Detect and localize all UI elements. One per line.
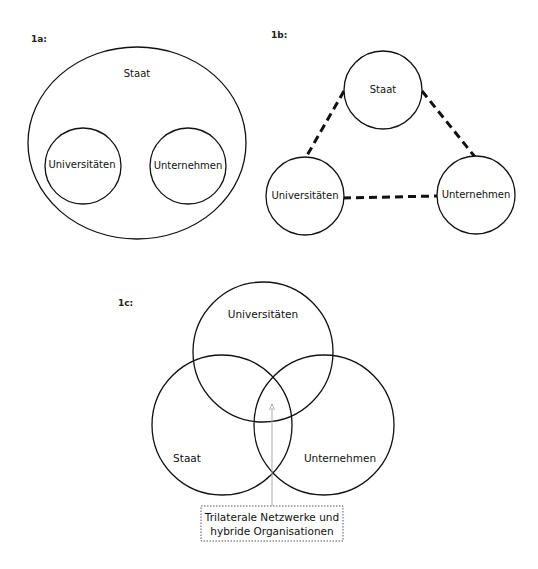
universitaeten-label: Universitäten xyxy=(48,159,115,170)
universitaeten-label: Universitäten xyxy=(271,190,338,201)
figure-1b: 1b: Staat Universitäten Unternehmen xyxy=(266,30,515,235)
callout-line-2: hybride Organisationen xyxy=(210,525,333,537)
figure-1a-tag: 1a: xyxy=(31,34,47,44)
figure-1c-tag: 1c: xyxy=(118,298,133,308)
unternehmen-label: Unternehmen xyxy=(154,160,223,171)
figure-1b-tag: 1b: xyxy=(271,30,287,40)
triple-helix-diagram: 1a: Staat Universitäten Unternehmen 1b: … xyxy=(0,0,538,569)
staat-label: Staat xyxy=(173,452,201,464)
dashed-link-staat-universitaeten xyxy=(305,91,344,159)
unternehmen-circle xyxy=(254,355,394,495)
staat-label: Staat xyxy=(124,68,151,79)
universitaeten-label: Universitäten xyxy=(228,308,298,320)
unternehmen-label: Unternehmen xyxy=(304,452,376,464)
figure-1c: 1c: Universitäten Staat Unternehmen Tril… xyxy=(118,282,394,541)
figure-1a: 1a: Staat Universitäten Unternehmen xyxy=(28,34,246,239)
unternehmen-label: Unternehmen xyxy=(442,189,511,200)
dashed-link-universitaeten-unternehmen xyxy=(343,196,437,198)
dashed-link-staat-unternehmen xyxy=(422,91,475,157)
callout-line-1: Trilaterale Netzwerke und xyxy=(204,511,339,523)
universitaeten-circle xyxy=(193,282,333,422)
staat-circle xyxy=(152,355,292,495)
staat-label: Staat xyxy=(370,84,397,95)
